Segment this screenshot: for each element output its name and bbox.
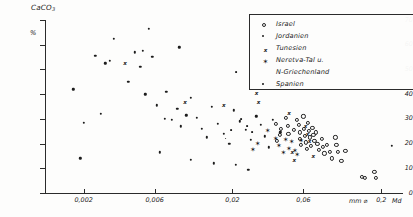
point-marker-dot (262, 35, 264, 37)
y-tick (40, 193, 45, 194)
y-tick-label: 20 (381, 140, 413, 146)
point-marker-dot (206, 136, 208, 138)
point-marker-star: ✶ (298, 138, 305, 145)
point-marker-dot (113, 37, 115, 39)
y-tick-label: 10 (381, 165, 413, 171)
legend-item-label: Spanien (276, 81, 304, 88)
point-marker-dot (264, 135, 266, 137)
point-marker-dot (151, 56, 153, 58)
point-marker-circle (279, 127, 283, 131)
x-tick (84, 189, 85, 194)
point-marker-circle (274, 122, 278, 126)
point-marker-circle (286, 124, 290, 128)
point-marker-dot (223, 132, 225, 134)
point-marker-circle (321, 145, 325, 149)
point-marker-dot (255, 115, 257, 117)
point-marker-dot (239, 120, 241, 122)
point-marker-dot (228, 142, 230, 144)
point-marker-circle (292, 128, 296, 132)
point-marker-circle (330, 156, 334, 160)
point-marker-x: x (302, 123, 309, 130)
point-marker-circle (262, 23, 266, 27)
point-marker-dot (170, 119, 172, 121)
point-marker-x: x (255, 98, 262, 105)
point-marker-circle (322, 151, 326, 155)
point-marker-dot (94, 55, 96, 57)
point-marker-small-dot (246, 125, 248, 127)
point-marker-dot (139, 66, 141, 68)
point-marker-circle (310, 125, 314, 129)
point-marker-star: ✶ (264, 128, 271, 135)
point-marker-small-dot (230, 129, 232, 131)
point-marker-dot (267, 146, 269, 148)
point-marker-dot (180, 125, 182, 127)
y-axis-line (45, 20, 46, 194)
point-marker-circle (320, 137, 324, 141)
point-marker-x: x (122, 60, 129, 67)
point-marker-star: ✶ (250, 146, 257, 153)
point-marker-dot (234, 163, 236, 165)
chart-legend: IsraelJordanienxTunesien✶Neretva-Tal u.N… (249, 14, 413, 90)
point-marker-dot (142, 50, 144, 52)
y-tick (40, 45, 45, 46)
x-tick (232, 189, 233, 194)
x-tick-label: 0,06 (283, 197, 323, 203)
point-marker-circle (328, 150, 332, 154)
point-marker-circle (339, 159, 343, 163)
point-marker-dot (260, 124, 262, 126)
point-marker-x: x (220, 102, 227, 109)
point-marker-circle (372, 170, 376, 174)
point-marker-star: ✶ (280, 150, 287, 157)
point-marker-dot (217, 123, 219, 125)
y-tick (40, 69, 45, 70)
point-marker-dot (104, 62, 106, 64)
point-marker-dot (165, 90, 167, 92)
point-marker-circle (334, 143, 338, 147)
point-marker-x: x (253, 89, 260, 96)
point-marker-x: x (306, 138, 313, 145)
legend-item-label: Neretva-Tal u. (276, 57, 324, 64)
point-marker-dot (133, 51, 135, 53)
point-marker-circle (295, 118, 299, 122)
y-tick (40, 168, 45, 169)
point-marker-dot (156, 104, 158, 106)
point-marker-star: ✶ (288, 139, 295, 146)
point-marker-dot (244, 129, 246, 131)
point-marker-dot (148, 27, 150, 29)
point-marker-circle (301, 114, 305, 118)
y-axis-title-subscript: 3 (52, 6, 56, 12)
legend-item-label: Jordanien (276, 33, 309, 40)
x-tick-label: 0,002 (64, 197, 104, 203)
x-axis-unit-label: mm ⌀ (349, 197, 367, 205)
point-marker-dot (159, 151, 161, 153)
legend-item-label: N-Griechenland (276, 69, 329, 76)
y-tick (40, 20, 45, 21)
y-tick (40, 144, 45, 145)
scatter-chart-figure: CaCO3 % 010203040506070 0,0020,0060,020,… (0, 0, 413, 217)
point-marker-star: ✶ (262, 59, 269, 66)
point-marker-dot (127, 81, 129, 83)
point-marker-x: x (310, 152, 317, 159)
point-marker-circle (315, 141, 319, 145)
y-axis-title: CaCO3 (31, 3, 55, 12)
y-tick (40, 94, 45, 95)
x-axis-line (45, 193, 403, 194)
point-marker-dot (247, 168, 249, 170)
point-marker-dot (99, 113, 101, 115)
point-marker-dot (201, 128, 203, 130)
x-axis-md-label: Md (392, 197, 402, 205)
point-marker-circle (363, 176, 367, 180)
point-marker-dot (185, 114, 187, 116)
point-marker-dot (210, 105, 212, 107)
legend-item-label: Tunesien (276, 45, 306, 52)
point-marker-dot (190, 97, 192, 99)
y-tick-label: 30 (381, 115, 413, 121)
point-marker-dot (213, 162, 215, 164)
point-marker-dot (144, 93, 146, 95)
point-marker-circle (336, 150, 340, 154)
x-tick-label: 0,006 (135, 197, 175, 203)
point-marker-dot (109, 60, 111, 62)
y-axis-title-text: CaCO (31, 3, 52, 12)
point-marker-small-dot (251, 132, 253, 134)
x-tick (381, 189, 382, 194)
